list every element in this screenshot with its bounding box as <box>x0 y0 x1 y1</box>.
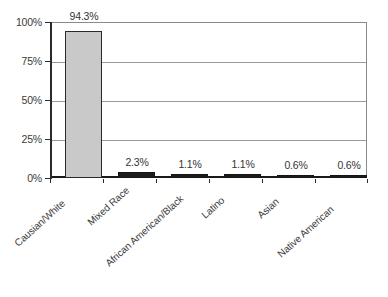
y-tick-mark-75 <box>45 61 50 62</box>
x-tick-mark-5 <box>315 179 316 183</box>
y-tick-mark-25 <box>45 139 50 140</box>
data-label-african-american-black: 1.1% <box>164 158 216 170</box>
x-tick-mark-3 <box>209 179 210 183</box>
data-label-asian: 0.6% <box>270 159 322 171</box>
y-tick-label-75: 75% <box>0 55 42 67</box>
bar-native-american <box>330 175 367 178</box>
y-tick-label-100: 100% <box>0 16 42 28</box>
x-tick-mark-6 <box>367 179 368 183</box>
data-label-native-american: 0.6% <box>323 159 375 171</box>
x-label-causian-white: Causian/White <box>12 198 67 249</box>
y-tick-label-0: 0% <box>0 172 42 184</box>
y-axis-line <box>50 22 52 179</box>
data-label-causian-white: 94.3% <box>58 10 110 22</box>
x-label-mixed-race: Mixed Race <box>85 185 131 228</box>
x-tick-mark-4 <box>262 179 263 183</box>
bar-mixed-race <box>118 172 155 178</box>
bar-latino <box>224 174 261 178</box>
y-tick-mark-100 <box>45 22 50 23</box>
data-label-latino: 1.1% <box>217 158 269 170</box>
data-label-mixed-race: 2.3% <box>111 156 163 168</box>
x-tick-mark-0 <box>50 179 51 183</box>
x-label-native-american: Native American <box>275 204 335 260</box>
bar-asian <box>277 175 314 178</box>
y-tick-label-25: 25% <box>0 133 42 145</box>
x-label-latino: Latino <box>199 195 226 221</box>
y-tick-label-50: 50% <box>0 94 42 106</box>
y-tick-mark-50 <box>45 100 50 101</box>
x-label-asian: Asian <box>255 196 281 221</box>
x-tick-mark-1 <box>103 179 104 183</box>
bar-african-american-black <box>171 174 208 178</box>
bar-causian-white <box>65 31 102 178</box>
x-tick-mark-2 <box>156 179 157 183</box>
bar-chart: 100% 75% 50% 25% 0% 94.3% 2.3% 1.1% 1.1%… <box>0 0 388 297</box>
